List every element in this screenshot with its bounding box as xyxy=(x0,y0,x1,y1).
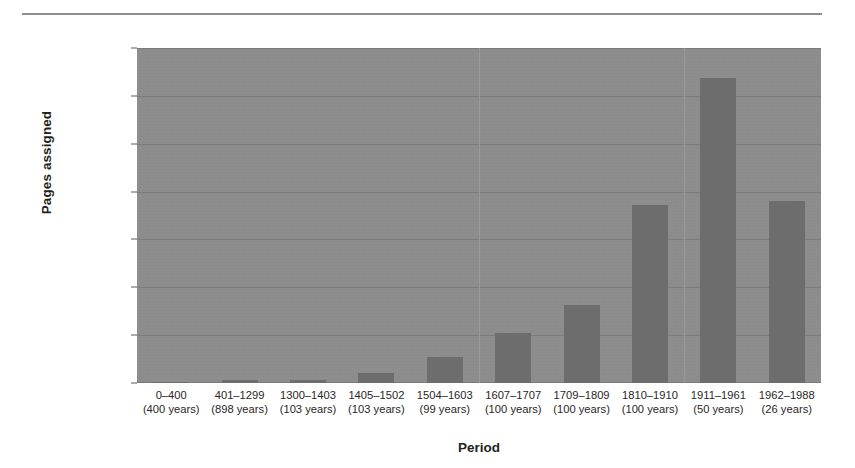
x-axis-tick-period: 1709–1809 xyxy=(554,389,610,401)
x-axis-tick-period: 1810–1910 xyxy=(622,389,678,401)
x-axis-tick-label: 1962–1988(26 years) xyxy=(753,388,821,416)
y-axis-tick-mark xyxy=(131,191,137,192)
x-axis-title: Period xyxy=(137,440,821,455)
plot-area xyxy=(137,48,821,383)
x-axis-tick-duration: (100 years) xyxy=(547,402,615,416)
x-axis-tick-label: 1405–1502(103 years) xyxy=(342,388,410,416)
bar xyxy=(153,382,189,383)
x-axis-tick-label: 1911–1961(50 years) xyxy=(684,388,752,416)
x-axis-tick-period: 1962–1988 xyxy=(759,389,815,401)
x-axis-tick-period: 401–1299 xyxy=(215,389,265,401)
x-axis-tick-label: 1709–1809(100 years) xyxy=(547,388,615,416)
x-axis-tick-label: 1300–1403(103 years) xyxy=(274,388,342,416)
bar xyxy=(290,380,326,383)
bar xyxy=(222,380,258,383)
x-axis-tick-label: 401–1299(898 years) xyxy=(205,388,273,416)
x-axis-tick-duration: (26 years) xyxy=(753,402,821,416)
y-axis-tick-mark xyxy=(131,239,137,240)
x-axis-tick-duration: (103 years) xyxy=(274,402,342,416)
bar xyxy=(700,78,736,383)
y-axis-tick-mark xyxy=(131,383,137,384)
chart-figure: Pages assigned Period 050100150200250300… xyxy=(0,0,855,468)
y-axis-tick-mark xyxy=(131,287,137,288)
x-axis-tick-period: 1300–1403 xyxy=(280,389,336,401)
bar xyxy=(427,357,463,383)
x-axis-tick-duration: (99 years) xyxy=(411,402,479,416)
x-axis-tick-label: 1607–1707(100 years) xyxy=(479,388,547,416)
x-axis-tick-duration: (103 years) xyxy=(342,402,410,416)
bar xyxy=(632,205,668,383)
top-divider-rule xyxy=(22,13,822,15)
x-axis-tick-label: 1504–1603(99 years) xyxy=(411,388,479,416)
y-axis-tick-mark xyxy=(131,48,137,49)
x-axis-tick-duration: (400 years) xyxy=(137,402,205,416)
y-axis-title: Pages assigned xyxy=(39,73,54,253)
y-axis-tick-mark xyxy=(131,335,137,336)
x-axis-tick-duration: (100 years) xyxy=(479,402,547,416)
y-axis-tick-mark xyxy=(131,95,137,96)
y-axis-tick-mark xyxy=(131,143,137,144)
x-axis-tick-period: 1607–1707 xyxy=(485,389,541,401)
x-axis-tick-period: 0–400 xyxy=(156,389,187,401)
x-axis-tick-duration: (898 years) xyxy=(205,402,273,416)
x-axis-tick-period: 1504–1603 xyxy=(417,389,473,401)
bar xyxy=(495,333,531,383)
x-axis-tick-label: 0–400(400 years) xyxy=(137,388,205,416)
plot-vertical-separator xyxy=(684,48,685,383)
x-axis-tick-duration: (50 years) xyxy=(684,402,752,416)
bar xyxy=(358,373,394,383)
bar xyxy=(769,201,805,383)
bar xyxy=(564,305,600,383)
x-axis-tick-period: 1911–1961 xyxy=(691,389,746,401)
plot-vertical-separator xyxy=(479,48,480,383)
x-axis-tick-duration: (100 years) xyxy=(616,402,684,416)
x-axis-tick-label: 1810–1910(100 years) xyxy=(616,388,684,416)
x-axis-tick-period: 1405–1502 xyxy=(348,389,404,401)
